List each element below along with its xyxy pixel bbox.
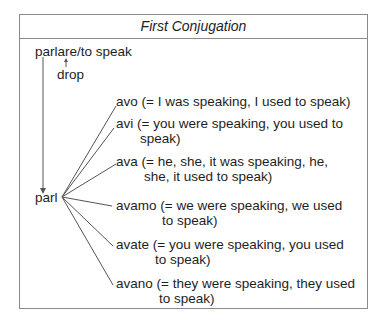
branch-avi (62, 128, 114, 197)
ending-avo: avo (= I was speaking, I used to speak) (116, 94, 351, 109)
branch-avo (62, 106, 116, 197)
ending-avamo-cont: to speak) (162, 213, 218, 228)
infinitive-label: parlare/to speak (35, 44, 132, 59)
stem-label: parl (35, 190, 58, 205)
drop-label: drop (57, 67, 84, 82)
ending-avate-cont: to speak) (155, 252, 211, 267)
ending-ava-cont: she, it used to speak) (144, 169, 272, 184)
ending-avamo: avamo (= we were speaking, we used (116, 198, 342, 213)
ending-avano: avano (= they were speaking, they used (116, 276, 355, 291)
ending-avi: avi (= you were speaking, you used to (116, 116, 343, 131)
ending-ava: ava (= he, she, it was speaking, he, (116, 154, 328, 169)
branch-avano (62, 197, 113, 285)
branch-ava (62, 164, 116, 197)
ending-avano-cont: to speak) (159, 291, 215, 306)
ending-avi-cont: speak) (140, 131, 181, 146)
ending-avate: avate (= you were speaking, you used (116, 237, 344, 252)
